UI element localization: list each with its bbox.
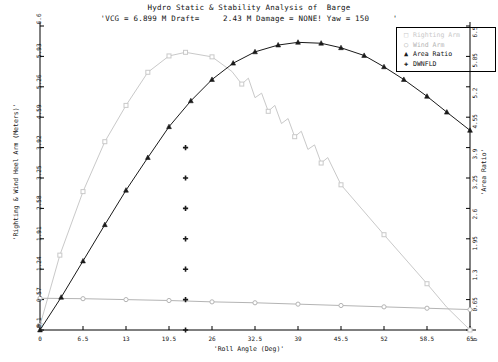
y-tick-label-left: 1.24 [35,257,42,281]
legend-label: Wind Arm [413,41,444,50]
data-point-marker [339,183,343,187]
y-axis-right-title: 'Area Ratio' [480,92,488,252]
y-tick-label-left: 3.25 [35,166,42,190]
chart-legend: □Righting Arm○Wind Arm▲Area Ratio✚DWNFLD [396,27,496,72]
data-point-marker [167,54,171,58]
legend-label: Righting Arm [413,31,460,40]
data-point-marker [183,236,188,241]
y-tick-label-right: 0.65 [471,287,478,311]
data-point-marker [183,327,188,332]
x-tick-label: 39 [294,335,301,342]
plus-marker-icon: ✚ [400,60,412,69]
data-point-marker [81,190,85,194]
circle-marker-icon: ○ [400,41,412,50]
data-point-marker [81,297,85,301]
y-tick-label-right: 1.3 [471,257,478,281]
y-tick-label-left: 2.58 [35,196,42,220]
y-axis-left-title: 'Righting & Wind Heel Arm (Meters)' [12,92,20,252]
y-tick-label-right: 3.25 [471,166,478,190]
data-point-marker [425,306,429,310]
data-point-marker [184,50,188,54]
series-line [40,42,470,330]
data-point-marker [124,298,128,302]
legend-label: DWNFLD [413,60,436,69]
data-point-marker [339,303,343,307]
series-line [40,52,470,330]
x-axis-title: 'Roll Angle (Deg)' [0,345,498,353]
series-dwnfld [183,145,188,333]
data-point-marker [183,267,188,272]
chart-page: Hydro Static & Stability Analysis of Bar… [0,0,498,362]
data-point-marker [293,135,297,139]
legend-label: Area Ratio [413,50,452,59]
data-point-marker [240,82,244,86]
x-tick-label: 52 [380,335,387,342]
data-point-marker [103,140,107,144]
y-tick-label-right: 4.55 [471,105,478,129]
data-point-marker [425,282,429,286]
data-point-marker [425,94,430,99]
x-tick-label: 45.5 [334,335,348,342]
data-point-marker [146,70,150,74]
y-tick-label-left: 0.57 [35,287,42,311]
data-point-marker [124,103,128,107]
y-tick-label-left: -0.1 [35,318,42,342]
data-point-marker [319,161,323,165]
x-tick-label: 58.5 [420,335,434,342]
y-tick-label-right: 1.95 [471,226,478,250]
triangle-marker-icon: ▲ [400,50,412,59]
data-point-marker [167,298,171,302]
y-tick-label-left: 6.6 [35,14,42,38]
x-tick-label: 13 [122,335,129,342]
y-tick-label-right: 5.2 [471,74,478,98]
y-tick-label-right: 3.9 [471,135,478,159]
series-area-ratio [38,40,473,332]
data-point-marker [253,301,257,305]
square-marker-icon: □ [400,31,412,40]
data-point-marker [382,64,387,69]
data-point-marker [401,77,406,82]
y-tick-label-left: 4.59 [35,105,42,129]
data-point-marker [183,145,188,150]
y-tick-label-right: 2.6 [471,196,478,220]
data-point-marker [266,109,270,113]
y-tick-label-left: 5.93 [35,44,42,68]
data-point-marker [210,300,214,304]
data-point-marker [296,302,300,306]
x-tick-label: 32.5 [248,335,262,342]
x-tick-label: 19.5 [162,335,176,342]
y-tick-label-left: 1.91 [35,226,42,250]
data-point-marker [210,55,214,59]
y-tick-label-left: 3.92 [35,135,42,159]
data-point-marker [382,233,386,237]
data-point-marker [183,206,188,211]
data-point-marker [183,175,188,180]
data-point-marker [382,305,386,309]
series-wind-arm [38,296,472,312]
x-tick-label: 6.5 [78,335,89,342]
data-point-marker [58,253,62,257]
y-tick-label-right: 0 [471,318,478,342]
y-tick-label-left: 5.26 [35,74,42,98]
x-tick-label: 26 [208,335,215,342]
series-righting-arm [38,50,472,332]
